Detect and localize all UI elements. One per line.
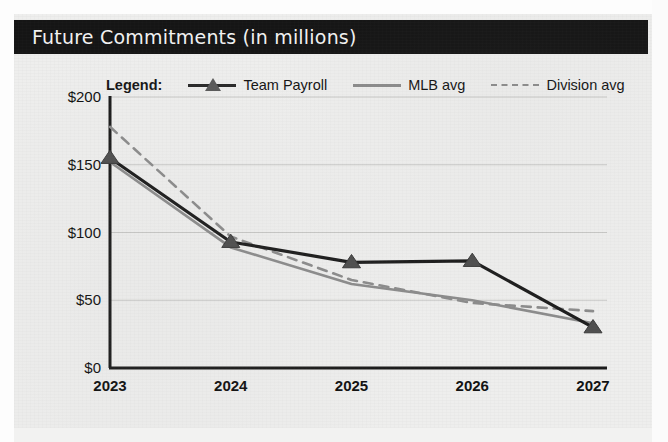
chart-card: Future Commitments (in millions) Legend:… — [14, 14, 652, 428]
chart-plot-area: $0$50$100$150$20020232024202520262027 — [14, 14, 652, 428]
line-chart: $0$50$100$150$20020232024202520262027 — [14, 14, 652, 428]
y-axis-tick-label: $100 — [68, 224, 101, 241]
page-margin-left — [0, 0, 14, 442]
y-axis-tick-label: $50 — [76, 291, 101, 308]
x-axis-tick-label: 2026 — [456, 377, 489, 394]
page-margin-right — [652, 0, 668, 442]
x-axis-tick-label: 2025 — [335, 377, 368, 394]
x-axis-tick-label: 2027 — [576, 377, 609, 394]
y-axis-tick-label: $200 — [68, 88, 101, 105]
x-axis-tick-label: 2023 — [93, 377, 126, 394]
data-point-marker — [101, 150, 119, 163]
page-margin-top — [0, 0, 668, 14]
series-line-team-payroll — [110, 158, 593, 327]
y-axis-tick-label: $150 — [68, 156, 101, 173]
y-axis-tick-label: $0 — [84, 359, 101, 376]
series-line-mlb-avg — [110, 162, 593, 323]
x-axis-tick-label: 2024 — [214, 377, 248, 394]
page-root: Future Commitments (in millions) Legend:… — [0, 0, 668, 442]
